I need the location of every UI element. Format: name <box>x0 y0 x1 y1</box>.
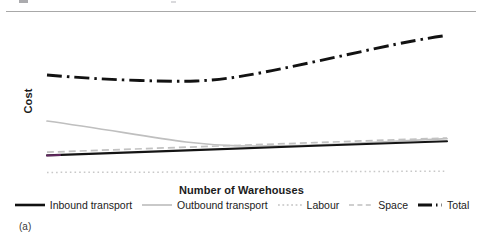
compression-artifact-magenta <box>47 155 60 156</box>
chart-legend: Inbound transport Outbound transport Lab… <box>0 199 483 211</box>
subfigure-caption: (a) <box>19 221 31 232</box>
x-axis-title: Number of Warehouses <box>0 184 483 196</box>
legend-item-total[interactable]: Total <box>417 199 469 211</box>
figure-container: Cost Number of Warehouses Inbound transp… <box>0 0 483 241</box>
series-line-inbound-transport <box>47 141 447 155</box>
series-line-labour <box>47 171 447 172</box>
solid-line-swatch-icon <box>14 199 46 211</box>
legend-label-outbound-transport: Outbound transport <box>177 199 267 211</box>
clipped-header-artifact <box>19 0 28 3</box>
series-line-space <box>47 138 447 152</box>
legend-item-inbound-transport[interactable]: Inbound transport <box>14 199 132 211</box>
legend-label-total: Total <box>447 199 469 211</box>
dashed-line-swatch-icon <box>348 199 374 211</box>
legend-label-space: Space <box>378 199 408 211</box>
clipped-header-artifact-secondary <box>171 1 176 3</box>
legend-label-labour: Labour <box>307 199 340 211</box>
legend-item-labour[interactable]: Labour <box>277 199 340 211</box>
chart-svg <box>0 14 483 182</box>
legend-item-outbound-transport[interactable]: Outbound transport <box>141 199 267 211</box>
solid-line-swatch-icon <box>141 199 173 211</box>
legend-item-space[interactable]: Space <box>348 199 408 211</box>
header-divider-rule <box>6 11 476 12</box>
dash-dot-line-swatch-icon <box>417 199 443 211</box>
plot-area <box>0 14 483 182</box>
series-line-total <box>47 35 447 81</box>
dotted-line-swatch-icon <box>277 199 303 211</box>
legend-label-inbound-transport: Inbound transport <box>50 199 132 211</box>
